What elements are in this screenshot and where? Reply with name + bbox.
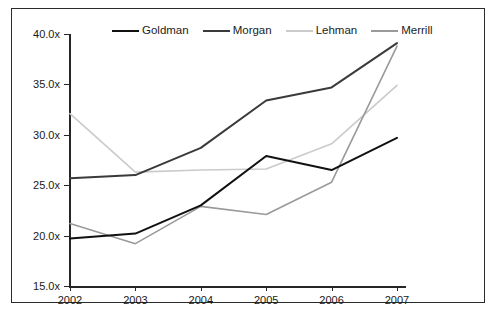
series-line-lehman [70,85,397,172]
chart-series-layer [12,9,486,304]
chart-frame: Goldman Morgan Lehman Merrill 40.0x35.0x… [11,8,485,303]
series-line-goldman [70,138,397,239]
chart-plot-area: Goldman Morgan Lehman Merrill 40.0x35.0x… [12,9,486,304]
